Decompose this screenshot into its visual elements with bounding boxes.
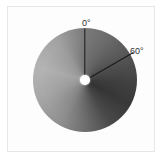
zero-degree-ray bbox=[84, 29, 85, 81]
zero-degree-label: 0° bbox=[82, 19, 91, 28]
center-hub bbox=[80, 75, 90, 85]
sixty-degree-label: 60° bbox=[130, 47, 144, 56]
